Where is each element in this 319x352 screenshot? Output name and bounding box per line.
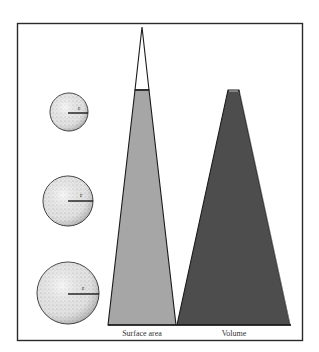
sphere-small: r [50,93,88,131]
surface-area-label: Surface area [122,329,162,338]
sphere-medium: r [43,176,93,226]
sphere-large: r [37,262,99,324]
volume-label: Volume [222,329,247,338]
figure: r r r Surface [0,0,319,352]
